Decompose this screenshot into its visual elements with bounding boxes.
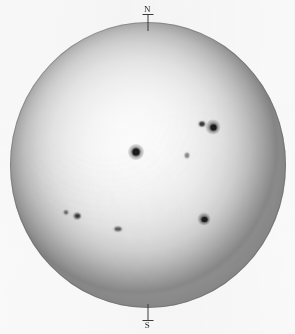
south-label: S bbox=[145, 321, 151, 330]
solar-disk bbox=[10, 22, 286, 308]
orientation-mark-north: N bbox=[142, 5, 153, 31]
south-tick-line bbox=[147, 304, 148, 320]
north-label: N bbox=[144, 5, 151, 14]
image-title: White-light photograph of the solar disk… bbox=[0, 21, 1, 22]
solar-disk-container bbox=[10, 22, 286, 308]
orientation-mark-south: S bbox=[142, 304, 153, 330]
north-tick-line bbox=[147, 15, 148, 31]
solar-photograph-plate: White-light photograph of the solar disk… bbox=[0, 0, 295, 334]
